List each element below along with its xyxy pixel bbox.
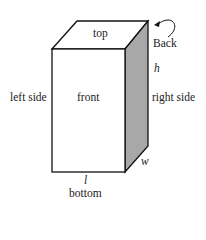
front-face bbox=[52, 49, 125, 172]
label-top: top bbox=[93, 28, 108, 40]
label-width: w bbox=[141, 156, 149, 168]
label-front: front bbox=[77, 92, 99, 104]
label-height: h bbox=[154, 63, 160, 75]
label-back: Back bbox=[153, 38, 177, 50]
back-arrow-head bbox=[154, 21, 160, 27]
label-length: l bbox=[84, 175, 87, 187]
back-arrow bbox=[158, 20, 175, 37]
label-bottom: bottom bbox=[69, 188, 102, 200]
label-left-side: left side bbox=[10, 92, 47, 104]
label-right-side: right side bbox=[152, 92, 195, 104]
